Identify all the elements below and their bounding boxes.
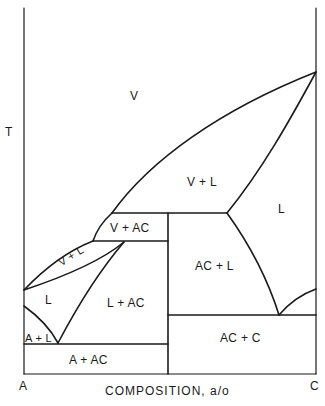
x-left-endpoint-label: A (19, 379, 27, 393)
region-label-ac-plus-l: AC + L (195, 259, 234, 273)
region-label-a-plus-ac: A + AC (69, 353, 108, 367)
y-axis-label: T (5, 125, 13, 139)
region-label-l-right: L (278, 202, 285, 216)
c-liquidus (279, 289, 316, 315)
dew-curve-upper (112, 72, 316, 213)
region-label-l-plus-ac: L + AC (107, 296, 145, 310)
phase-diagram (0, 0, 325, 406)
x-axis-label: COMPOSITION, a/o (105, 384, 230, 398)
region-label-ac-plus-c: AC + C (220, 331, 261, 345)
x-right-endpoint-label: C (310, 379, 319, 393)
region-label-a-plus-l: A + L (25, 332, 52, 344)
region-label-l-left: L (45, 293, 52, 307)
region-label-v: V (130, 89, 138, 103)
region-label-v-plus-l-upper: V + L (187, 175, 217, 189)
bubble-curve-upper (227, 72, 316, 213)
ac-l-liquidus (227, 213, 279, 315)
region-label-v-plus-ac: V + AC (110, 221, 150, 235)
